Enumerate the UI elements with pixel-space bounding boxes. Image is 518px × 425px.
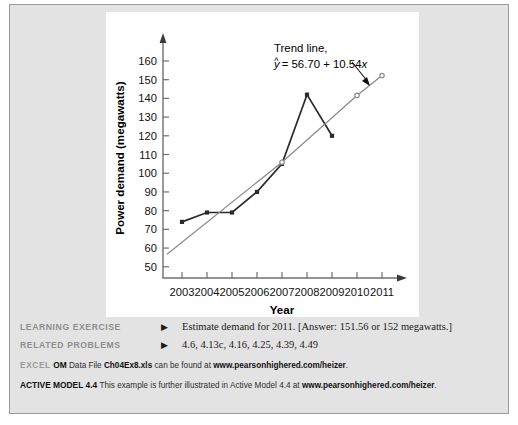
y-tick-label-60: 60 — [145, 242, 157, 254]
y-axis-arrow — [160, 33, 167, 43]
x-tick-label-2008: 2008 — [295, 286, 320, 298]
learning-exercise-row: LEARNING EXERCISE ▶ Estimate demand for … — [20, 321, 500, 332]
y-tick-label-160: 160 — [138, 55, 157, 67]
series-line-trend-line — [167, 76, 382, 255]
y-tick-label-110: 110 — [139, 149, 157, 161]
active-model-number: 4.4 — [86, 380, 98, 390]
excel-om-row: EXCEL OM Data File Ch04Ex8.xls can be fo… — [20, 360, 500, 370]
trend-line-callout-line1: Trend line, — [274, 42, 327, 54]
x-axis-title: Year — [270, 303, 295, 316]
related-problems-body: 4.6, 4.13c, 4.16, 4.25, 4.39, 4.49 — [182, 339, 318, 350]
content-frame: 5060708090100110120130140150160200320042… — [9, 4, 509, 414]
y-tick-label-50: 50 — [145, 261, 157, 273]
x-tick-label-2003: 2003 — [170, 286, 195, 298]
x-tick-label-2011: 2011 — [370, 286, 394, 298]
chart-panel: 5060708090100110120130140150160200320042… — [106, 12, 419, 317]
related-problems-label-col: RELATED PROBLEMS ▶ — [20, 340, 168, 350]
excel-text-after: . — [346, 361, 348, 370]
active-model-url[interactable]: www.pearsonhighered.com/heizer — [302, 381, 435, 390]
learning-exercise-tag: LEARNING EXERCISE — [20, 322, 121, 332]
y-tick-label-70: 70 — [145, 223, 157, 235]
active-model-text-after: . — [434, 381, 436, 390]
trend-line-callout-line2: y^ = 56.70 + 10.54x — [273, 56, 369, 70]
power-demand-chart: 5060708090100110120130140150160200320042… — [106, 12, 419, 317]
data-point — [330, 134, 334, 138]
data-point — [380, 73, 384, 77]
active-model-tag: ACTIVE MODEL — [20, 380, 83, 390]
x-tick-label-2007: 2007 — [270, 286, 295, 298]
y-axis-title: Power demand (megawatts) — [113, 81, 126, 234]
data-point — [305, 93, 309, 97]
x-tick-label-2009: 2009 — [320, 286, 345, 298]
series-line-actual-power-demand — [182, 95, 332, 222]
y-tick-label-90: 90 — [145, 186, 157, 198]
active-model-text-before: This example is further illustrated in A… — [97, 381, 302, 390]
callout-arrow-head — [362, 77, 370, 86]
learning-exercise-body: Estimate demand for 2011. [Answer: 151.5… — [182, 321, 452, 332]
excel-text-before: Data File — [67, 361, 104, 370]
data-point — [230, 210, 234, 214]
data-point — [355, 93, 359, 97]
y-tick-label-140: 140 — [138, 92, 157, 104]
excel-text-mid: can be found at — [152, 361, 213, 370]
y-tick-label-120: 120 — [138, 130, 157, 142]
x-axis-arrow — [397, 274, 407, 281]
data-point — [180, 220, 184, 224]
y-tick-label-150: 150 — [138, 74, 157, 86]
learning-exercise-label-col: LEARNING EXERCISE ▶ — [20, 322, 168, 332]
triangle-right-icon: ▶ — [161, 340, 168, 350]
data-point — [280, 160, 284, 164]
data-point — [255, 190, 259, 194]
x-tick-label-2010: 2010 — [345, 286, 370, 298]
triangle-right-icon: ▶ — [161, 322, 168, 332]
related-problems-row: RELATED PROBLEMS ▶ 4.6, 4.13c, 4.16, 4.2… — [20, 339, 500, 350]
x-tick-label-2004: 2004 — [195, 286, 220, 298]
x-tick-label-2006: 2006 — [245, 286, 270, 298]
related-problems-tag: RELATED PROBLEMS — [20, 340, 121, 350]
excel-tag: EXCEL — [20, 361, 51, 370]
y-tick-label-100: 100 — [138, 167, 157, 179]
excel-file-name: Ch04Ex8.xls — [104, 361, 152, 370]
excel-url[interactable]: www.pearsonhighered.com/heizer — [213, 361, 346, 370]
x-tick-label-2005: 2005 — [220, 286, 245, 298]
y-tick-label-80: 80 — [145, 205, 157, 217]
notes-block: LEARNING EXERCISE ▶ Estimate demand for … — [20, 321, 500, 398]
data-point — [205, 210, 209, 214]
y-tick-label-130: 130 — [138, 111, 157, 123]
screenshot-root: 5060708090100110120130140150160200320042… — [0, 0, 518, 425]
active-model-row: ACTIVE MODEL 4.4 This example is further… — [20, 380, 500, 390]
om-label: OM — [53, 360, 67, 370]
